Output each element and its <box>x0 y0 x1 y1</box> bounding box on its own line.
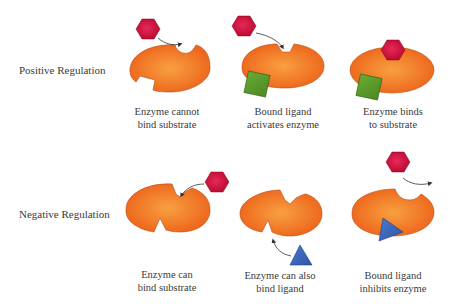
caption-negative-3: Bound ligand inhibits enzyme <box>333 269 453 295</box>
caption-negative-1: Enzyme can bind substrate <box>107 268 227 294</box>
arrow-icon <box>158 38 181 45</box>
substrate-hexagon <box>136 19 160 39</box>
caption-line: to substrate <box>333 118 453 131</box>
arrow-icon <box>273 240 291 256</box>
caption-line: Enzyme cannot <box>107 105 227 118</box>
caption-negative-2: Enzyme can also bind ligand <box>220 269 340 295</box>
enzyme-active <box>240 190 322 236</box>
caption-line: Bound ligand <box>223 105 343 118</box>
caption-line: Bound ligand <box>333 269 453 282</box>
enzyme-active <box>126 184 210 232</box>
caption-line: Enzyme can also <box>220 269 340 282</box>
activator-ligand-square <box>244 71 270 97</box>
caption-line: bind substrate <box>107 118 227 131</box>
regulation-diagram <box>0 0 455 308</box>
caption-positive-2: Bound ligand activates enzyme <box>223 105 343 131</box>
row-label-positive: Positive Regulation <box>19 64 105 76</box>
substrate-hexagon <box>205 172 229 192</box>
caption-line: bind substrate <box>107 281 227 294</box>
caption-positive-3: Enzyme binds to substrate <box>333 105 453 131</box>
caption-line: inhibits enzyme <box>333 282 453 295</box>
enzyme-inactive <box>130 45 210 92</box>
caption-positive-1: Enzyme cannot bind substrate <box>107 105 227 131</box>
activator-ligand-square <box>356 74 382 100</box>
arrow-icon <box>403 178 431 184</box>
inhibitor-ligand-triangle <box>290 245 312 265</box>
caption-line: bind ligand <box>220 282 340 295</box>
caption-line: Enzyme can <box>107 268 227 281</box>
caption-line: Enzyme binds <box>333 105 453 118</box>
caption-line: activates enzyme <box>223 118 343 131</box>
substrate-hexagon <box>232 16 256 36</box>
row-label-negative: Negative Regulation <box>19 208 110 220</box>
substrate-hexagon <box>386 152 410 172</box>
